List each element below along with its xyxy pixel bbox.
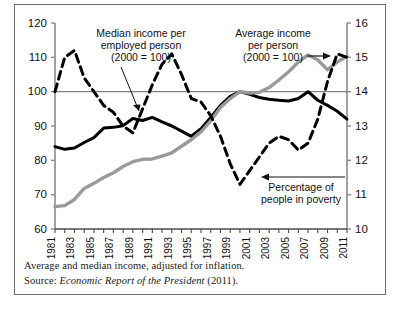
x-axis-tick-label: 2009	[319, 237, 330, 260]
footnote-source-title: Economic Report of the President	[60, 275, 205, 286]
x-axis-tick-label: 1993	[163, 237, 174, 260]
annotation-poverty-line-1: Percentage of	[268, 181, 333, 193]
annotation-median-line-2: employed person	[101, 39, 182, 51]
right-axis-tick-label: 16	[355, 17, 368, 29]
x-axis-tick-label: 2005	[280, 237, 291, 260]
right-axis-tick-label: 13	[355, 120, 368, 132]
right-axis-tick-label: 12	[355, 154, 368, 166]
x-axis-tick-label: 2001	[241, 237, 252, 260]
annotation-median-leader-line	[121, 67, 139, 111]
x-axis-tick-label: 1997	[202, 237, 213, 260]
figure-container: 6070809010011012010111213141516198119831…	[0, 0, 400, 313]
footnote-source-year: (2011).	[205, 275, 239, 286]
left-axis-tick-label: 70	[34, 188, 47, 200]
left-axis-tick-label: 90	[34, 120, 47, 132]
x-axis-tick-label: 1981	[46, 237, 57, 260]
series-poverty-rate	[55, 50, 347, 184]
left-axis-tick-label: 100	[28, 85, 47, 97]
x-axis-tick-label: 1991	[143, 237, 154, 260]
annotation-average-line-1: Average income	[235, 27, 311, 39]
annotation-average-line-2: per person	[248, 39, 298, 51]
x-axis-tick-label: 2011	[338, 237, 349, 259]
footnote-line-1: Average and median income, adjusted for …	[24, 260, 245, 271]
annotation-poverty-line-2: people in poverty	[261, 193, 342, 205]
income-poverty-line-chart: 6070809010011012010111213141516198119831…	[15, 5, 387, 296]
right-axis-tick-label: 14	[355, 85, 368, 97]
annotation-average-line-3: (2000 = 100)	[243, 51, 303, 63]
annotation-average-arrowhead	[323, 53, 331, 60]
x-axis-tick-label: 1987	[104, 237, 115, 260]
left-axis-tick-label: 80	[34, 154, 47, 166]
x-axis-tick-label: 1999	[221, 237, 232, 260]
footnote-source: Source: Economic Report of the President…	[24, 275, 238, 286]
left-axis-tick-label: 110	[29, 51, 47, 63]
figure-frame: 6070809010011012010111213141516198119831…	[14, 4, 386, 295]
x-axis-tick-label: 1985	[85, 237, 96, 260]
x-axis-tick-label: 1995	[182, 237, 193, 260]
annotation-poverty-arrowhead	[261, 174, 269, 181]
left-axis-tick-label: 120	[28, 17, 47, 29]
footnote-source-prefix: Source:	[24, 275, 60, 286]
x-axis-tick-label: 1989	[124, 237, 135, 260]
right-axis-tick-label: 15	[355, 51, 368, 63]
annotation-median-arrowhead	[133, 105, 141, 112]
annotation-median-line-1: Median income per	[96, 27, 186, 39]
right-axis-tick-label: 11	[355, 188, 367, 200]
x-axis-tick-label: 2007	[299, 237, 310, 260]
annotation-median-line-3: (2000 = 100)	[111, 51, 171, 63]
plot-area: 6070809010011012010111213141516198119831…	[15, 5, 387, 296]
x-axis-tick-label: 2003	[260, 237, 271, 260]
left-axis-tick-label: 60	[34, 223, 47, 235]
right-axis-tick-label: 10	[355, 223, 368, 235]
x-axis-tick-label: 1983	[65, 237, 76, 260]
